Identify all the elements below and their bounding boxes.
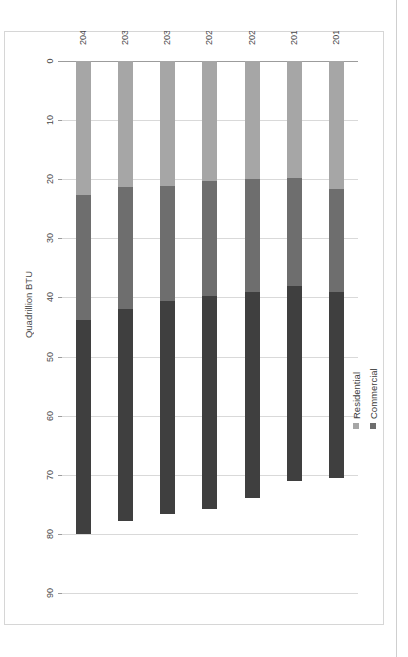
value-axis-tick-label: 70 — [45, 460, 55, 490]
category-axis-label: 2011 — [331, 31, 341, 55]
bar-segment-residential[interactable] — [160, 61, 175, 186]
category-axis-label: 2035 — [120, 31, 130, 55]
bar-group[interactable] — [329, 31, 344, 625]
value-axis-tick-label: 30 — [45, 223, 55, 253]
bar-segment-commercial[interactable] — [76, 195, 91, 320]
stacked-bar-chart: 0102030405060708090Quadrillion BTU201120… — [4, 31, 384, 625]
value-axis-tick-label: 50 — [45, 342, 55, 372]
bar-group[interactable] — [160, 31, 175, 625]
bar-segment-commercial[interactable] — [245, 179, 260, 291]
axis-tick — [58, 179, 62, 180]
bar-group[interactable] — [245, 31, 260, 625]
bar-segment-residential[interactable] — [329, 61, 344, 189]
bar-segment-residential[interactable] — [287, 61, 302, 178]
value-axis-tick-label: 60 — [45, 401, 55, 431]
bar-segment-industrial[interactable] — [118, 309, 133, 522]
page-edge-line — [396, 0, 397, 657]
category-axis-label: 2015 — [289, 31, 299, 55]
legend-swatch-icon — [370, 423, 376, 429]
bar-segment-commercial[interactable] — [118, 187, 133, 308]
legend-swatch-icon — [353, 423, 359, 429]
axis-tick — [58, 534, 62, 535]
axis-tick — [58, 357, 62, 358]
category-axis-label: 2030 — [162, 31, 172, 55]
value-axis-tick-label: 90 — [45, 578, 55, 608]
legend-label: Residential — [351, 372, 362, 419]
value-axis-tick-label: 0 — [45, 46, 55, 76]
axis-tick — [58, 238, 62, 239]
bar-segment-commercial[interactable] — [203, 181, 218, 296]
value-axis-title: Quadrillion BTU — [23, 271, 34, 338]
bar-segment-industrial[interactable] — [203, 296, 218, 509]
bar-segment-commercial[interactable] — [160, 186, 175, 301]
axis-tick — [58, 416, 62, 417]
axis-tick — [58, 593, 62, 594]
category-axis-label: 2040 — [78, 31, 88, 55]
bar-segment-residential[interactable] — [245, 61, 260, 179]
axis-tick — [58, 475, 62, 476]
value-axis-tick-label: 40 — [45, 282, 55, 312]
bar-group[interactable] — [118, 31, 133, 625]
axis-tick — [58, 297, 62, 298]
bar-segment-commercial[interactable] — [287, 178, 302, 286]
bar-segment-industrial[interactable] — [76, 320, 91, 534]
bar-segment-residential[interactable] — [203, 61, 218, 181]
bar-group[interactable] — [76, 31, 91, 625]
bar-segment-industrial[interactable] — [287, 286, 302, 481]
value-axis-tick-label: 80 — [45, 519, 55, 549]
chart-page: 0102030405060708090Quadrillion BTU201120… — [0, 0, 408, 657]
bar-group[interactable] — [287, 31, 302, 625]
category-axis-label: 2020 — [247, 31, 257, 55]
value-axis-tick-label: 10 — [45, 105, 55, 135]
legend-item-residential[interactable]: Residential — [350, 372, 362, 429]
axis-tick — [58, 120, 62, 121]
legend-label: Commercial — [368, 368, 379, 419]
category-axis-label: 2025 — [205, 31, 215, 55]
bar-segment-industrial[interactable] — [329, 292, 344, 478]
bar-segment-commercial[interactable] — [329, 189, 344, 292]
rotated-chart-wrapper: 0102030405060708090Quadrillion BTU201120… — [4, 31, 384, 625]
legend-item-commercial[interactable]: Commercial — [367, 368, 379, 429]
bar-group[interactable] — [203, 31, 218, 625]
plot-area: 0102030405060708090Quadrillion BTU201120… — [4, 31, 384, 625]
value-axis-tick-label: 20 — [45, 164, 55, 194]
bar-segment-industrial[interactable] — [245, 292, 260, 499]
bar-segment-residential[interactable] — [118, 61, 133, 187]
bar-segment-residential[interactable] — [76, 61, 91, 195]
bar-segment-industrial[interactable] — [160, 301, 175, 514]
